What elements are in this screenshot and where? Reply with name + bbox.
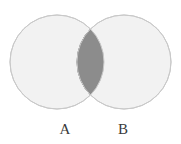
venn-diagram-canvas: A B — [0, 0, 181, 144]
set-label-b: B — [118, 121, 128, 137]
venn-diagram-figure: A B — [0, 0, 181, 144]
set-label-a: A — [59, 121, 70, 137]
